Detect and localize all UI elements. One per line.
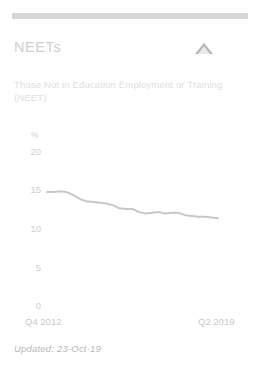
neets-line-chart[interactable] (0, 126, 260, 316)
top-divider-bar (12, 13, 248, 19)
updated-timestamp: Updated: 23-Oct-19 (14, 343, 101, 354)
neets-card: NEETs Those Not in Education Employment … (0, 0, 260, 370)
page-title: NEETs (14, 39, 61, 55)
card-header: NEETs (14, 37, 248, 63)
x-axis-tick-start: Q4 2012 (25, 316, 61, 327)
x-axis-tick-end: Q2 2019 (198, 316, 234, 327)
triangle-up-icon[interactable] (194, 42, 214, 56)
card-subtitle: Those Not in Education Employment or Tra… (14, 78, 232, 104)
series-line-neet-rate (47, 191, 218, 218)
